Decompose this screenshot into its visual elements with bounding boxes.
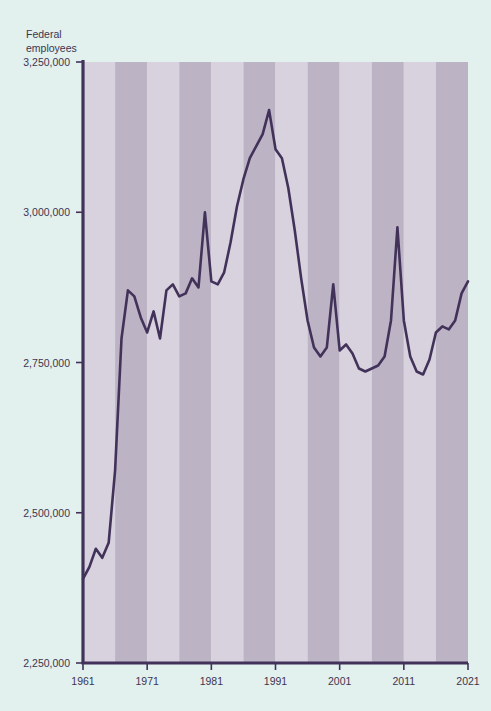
band-1981 bbox=[211, 62, 243, 663]
band-2011 bbox=[404, 62, 436, 663]
y-axis-ticks: 2,250,0002,500,0002,750,0003,000,0003,25… bbox=[23, 56, 83, 669]
x-tick-label-1961: 1961 bbox=[71, 675, 95, 687]
y-tick-label-3000000: 3,000,000 bbox=[23, 206, 70, 218]
x-tick-label-2021: 2021 bbox=[456, 675, 480, 687]
chart-band-shading bbox=[83, 62, 468, 663]
x-axis-ticks: 1961197119811991200120112021 bbox=[71, 663, 480, 687]
band-2016 bbox=[436, 62, 468, 663]
y-tick-label-2750000: 2,750,000 bbox=[23, 357, 70, 369]
band-1991 bbox=[276, 62, 308, 663]
line-chart: 2,250,0002,500,0002,750,0003,000,0003,25… bbox=[0, 0, 491, 711]
band-1976 bbox=[179, 62, 211, 663]
band-1961 bbox=[83, 62, 115, 663]
band-1971 bbox=[147, 62, 179, 663]
y-tick-label-2250000: 2,250,000 bbox=[23, 657, 70, 669]
x-tick-label-1971: 1971 bbox=[135, 675, 159, 687]
chart-page: Federalemployees 2,250,0002,500,0002,750… bbox=[0, 0, 491, 711]
x-tick-label-2001: 2001 bbox=[328, 675, 352, 687]
x-tick-label-1981: 1981 bbox=[200, 675, 224, 687]
x-tick-label-2011: 2011 bbox=[393, 675, 416, 687]
y-tick-label-3250000: 3,250,000 bbox=[23, 56, 70, 68]
x-tick-label-1991: 1991 bbox=[264, 675, 288, 687]
band-1986 bbox=[243, 62, 275, 663]
band-1996 bbox=[308, 62, 340, 663]
band-2006 bbox=[372, 62, 404, 663]
y-tick-label-2500000: 2,500,000 bbox=[23, 507, 70, 519]
